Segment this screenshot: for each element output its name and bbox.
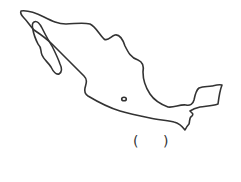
answer-paren-close: ): [163, 134, 168, 148]
baja-peninsula-outline: [32, 21, 61, 74]
mexico-map: [0, 0, 241, 182]
answer-paren-open: (: [133, 134, 138, 148]
city-marker-dot: [122, 97, 127, 101]
mainland-outline: [21, 11, 222, 130]
